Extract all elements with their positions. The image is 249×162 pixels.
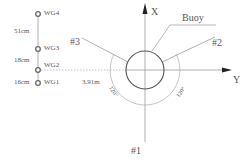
- buoy-leader: [152, 25, 170, 51]
- buoy-label: Buoy: [182, 13, 204, 23]
- gauge-label-wg1: WG1: [44, 79, 59, 86]
- spacing-label-16: 16cm: [14, 79, 30, 86]
- mooring-label-3: #3: [70, 37, 80, 47]
- gauge-label-wg2: WG2: [44, 62, 59, 69]
- spacing-label-18: 18cm: [14, 57, 30, 64]
- mooring-line-3: [82, 38, 128, 62]
- gauge-wg2-icon: [36, 68, 41, 73]
- x-axis-label: X: [151, 7, 158, 17]
- gauge-wg4-icon: [36, 12, 41, 17]
- gauge-wg1-icon: [36, 81, 41, 86]
- mooring-line-2: [162, 37, 215, 62]
- gauge-label-wg3: WG3: [44, 45, 59, 52]
- gauge-wg3-icon: [36, 47, 41, 52]
- y-axis-label: Y: [233, 75, 240, 85]
- distance-label: 3.91m: [82, 79, 100, 86]
- mooring-label-1: #1: [131, 146, 141, 156]
- spacing-label-51: 51cm: [14, 28, 30, 35]
- y-axis-arrow-icon: [222, 68, 232, 73]
- gauge-label-wg4: WG4: [44, 10, 59, 17]
- diagram-canvas: [0, 0, 249, 162]
- mooring-label-2: #2: [212, 38, 222, 48]
- x-axis-arrow-icon: [143, 3, 148, 14]
